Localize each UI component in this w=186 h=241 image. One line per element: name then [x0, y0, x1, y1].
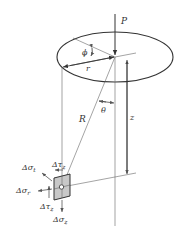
distance-label: R — [78, 114, 86, 124]
element-center-point — [59, 185, 63, 189]
load-label: P — [120, 16, 128, 26]
distance-line — [62, 57, 115, 187]
depth-label: z — [129, 113, 135, 122]
sigma-t-arrow — [42, 173, 52, 181]
sigma-z-label: Δσz — [52, 215, 68, 225]
sigma-t-label: Δσt — [21, 163, 36, 173]
phi-arc-icon — [91, 48, 92, 56]
phi-label: ϕ — [82, 48, 88, 57]
reference-axis — [115, 53, 136, 57]
radius-arrow-back — [70, 57, 114, 66]
sigma-r-arrow — [38, 189, 52, 191]
boussinesq-diagram: P ϕ r R θ z Δτz Δσt Δσr Δτz Δσz — [0, 0, 186, 241]
theta-arrow-back — [99, 101, 106, 102]
tau-top-label: Δτz — [51, 160, 66, 170]
depth-horizontal-line — [62, 173, 136, 187]
theta-label: θ — [101, 106, 106, 115]
sigma-r-label: Δσr — [15, 186, 31, 196]
tau-bottom-label: Δτz — [39, 202, 54, 212]
phi-reference-line — [73, 38, 115, 57]
radius-label: r — [86, 64, 91, 73]
